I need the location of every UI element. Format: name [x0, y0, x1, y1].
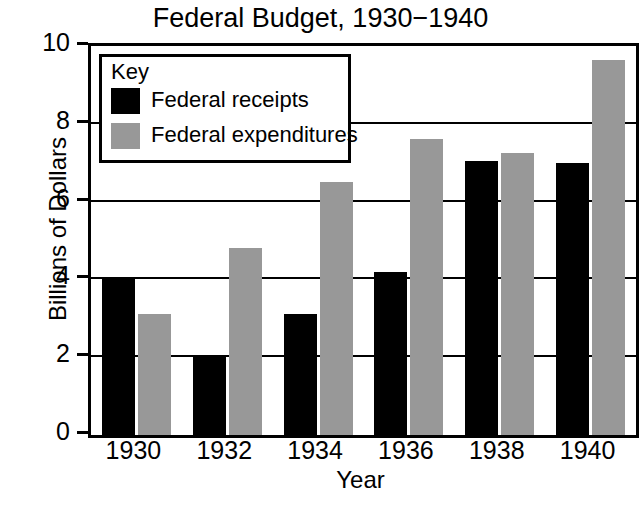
bar-chart: Federal Budget, 1930−1940 Billions of Do…	[0, 0, 641, 505]
y-tick-mark	[77, 275, 88, 278]
y-tick-label: 8	[0, 108, 70, 133]
y-tick-mark	[77, 198, 88, 201]
plot-area: Key Federal receiptsFederal expenditures	[88, 43, 639, 438]
y-tick-mark	[77, 353, 88, 356]
gridline	[91, 355, 636, 357]
x-tick-label: 1936	[361, 437, 452, 463]
bar	[592, 60, 625, 435]
y-tick-label: 4	[0, 263, 70, 288]
y-tick-label: 10	[0, 30, 70, 55]
x-tick-label: 1930	[88, 437, 179, 463]
bar	[465, 161, 498, 435]
legend-swatch-receipts	[111, 88, 140, 114]
y-tick-mark	[77, 42, 88, 45]
y-tick-mark	[77, 431, 88, 434]
x-tick-label: 1932	[179, 437, 270, 463]
bar	[229, 248, 262, 435]
x-tick-label: 1934	[270, 437, 361, 463]
y-tick-label: 0	[0, 419, 70, 444]
chart-title: Federal Budget, 1930−1940	[0, 2, 641, 34]
legend-title: Key	[111, 59, 149, 85]
bar	[320, 182, 353, 435]
y-tick-mark	[77, 120, 88, 123]
bar	[193, 357, 226, 435]
legend: Key Federal receiptsFederal expenditures	[99, 54, 351, 163]
gridline	[91, 277, 636, 279]
bar	[102, 279, 135, 435]
gridline	[91, 200, 636, 202]
bar	[284, 314, 317, 435]
x-tick-label: 1940	[542, 437, 633, 463]
bar	[556, 163, 589, 435]
legend-label: Federal expenditures	[151, 120, 358, 150]
y-tick-label: 6	[0, 186, 70, 211]
x-tick-label: 1938	[451, 437, 542, 463]
bar	[374, 272, 407, 435]
legend-label: Federal receipts	[151, 85, 309, 115]
bar	[138, 314, 171, 435]
legend-swatch-expenditures	[111, 123, 140, 149]
x-axis-label: Year	[88, 466, 633, 494]
bar	[410, 139, 443, 435]
y-tick-label: 2	[0, 341, 70, 366]
bar	[501, 153, 534, 435]
